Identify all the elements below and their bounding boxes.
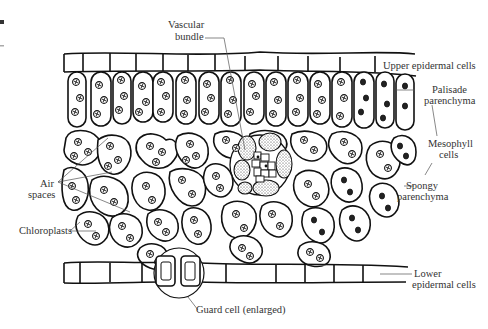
label-lower-epidermal-2: epidermal cells: [412, 279, 476, 290]
leaf-cross-section-diagram: Vascular bundle Upper epidermal cells Pa…: [0, 0, 488, 329]
guard-cell-enlarged: [154, 248, 204, 298]
label-palisade-2: parenchyma: [424, 95, 476, 106]
label-spongy-2: parenchyma: [397, 191, 449, 202]
label-mesophyll-1: Mesophyll: [428, 138, 473, 149]
label-vascular-bundle-1: Vascular: [168, 19, 205, 30]
palisade-layer: [68, 72, 414, 130]
label-guard-cell: Guard cell (enlarged): [196, 304, 286, 316]
label-vascular-bundle-2: bundle: [175, 31, 204, 42]
label-mesophyll-2: cells: [439, 149, 458, 160]
label-air-spaces-2: spaces: [28, 189, 55, 200]
label-spongy-1: Spongy: [406, 180, 439, 191]
label-palisade-1: Palisade: [432, 84, 467, 95]
label-chloroplasts: Chloroplasts: [19, 225, 72, 236]
label-lower-epidermal-1: Lower: [414, 268, 442, 279]
spongy-layer: [62, 131, 416, 270]
lower-epidermis: [64, 262, 408, 283]
label-upper-epidermal-cells: Upper epidermal cells: [383, 60, 476, 71]
label-air-spaces-1: Air: [40, 178, 55, 189]
corner-marks: [0, 20, 4, 47]
